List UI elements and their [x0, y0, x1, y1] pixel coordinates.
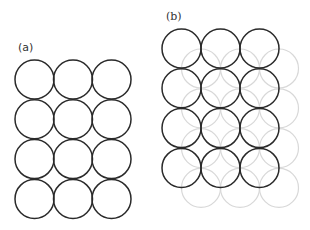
dark-circle: [162, 109, 201, 148]
dark-circle: [92, 100, 131, 139]
light-circle: [182, 89, 221, 128]
light-circle: [182, 129, 221, 168]
light-circle: [221, 168, 260, 207]
light-circle: [182, 168, 221, 207]
panel-b-label: (b): [166, 10, 182, 23]
dark-circle: [54, 179, 93, 218]
light-circle: [260, 129, 299, 168]
dark-circle: [240, 29, 279, 68]
light-circle: [221, 89, 260, 128]
dark-circle: [92, 179, 131, 218]
dark-circle: [162, 69, 201, 108]
panel-a-dark-layer: [15, 60, 131, 218]
dark-circle: [201, 29, 240, 68]
light-circle: [260, 89, 299, 128]
panel-a-label: (a): [18, 41, 33, 54]
dark-circle: [15, 100, 54, 139]
dark-circle: [201, 69, 240, 108]
dark-circle: [15, 140, 54, 179]
dark-circle: [240, 109, 279, 148]
light-circle: [221, 129, 260, 168]
dark-circle: [54, 100, 93, 139]
light-circle: [221, 49, 260, 88]
dark-circle: [162, 29, 201, 68]
dark-circle: [92, 60, 131, 99]
panel-b: (b): [162, 10, 299, 207]
light-circle: [182, 49, 221, 88]
dark-circle: [15, 179, 54, 218]
dark-circle: [240, 69, 279, 108]
dark-circle: [15, 60, 54, 99]
dark-circle: [201, 148, 240, 187]
circle-packing-diagram: (a) (b): [0, 0, 310, 230]
dark-circle: [162, 148, 201, 187]
panel-b-dark-layer: [162, 29, 279, 187]
panel-a: (a): [15, 41, 131, 218]
dark-circle: [92, 140, 131, 179]
light-circle: [260, 168, 299, 207]
light-circle: [260, 49, 299, 88]
dark-circle: [201, 109, 240, 148]
dark-circle: [240, 148, 279, 187]
dark-circle: [54, 60, 93, 99]
dark-circle: [54, 140, 93, 179]
